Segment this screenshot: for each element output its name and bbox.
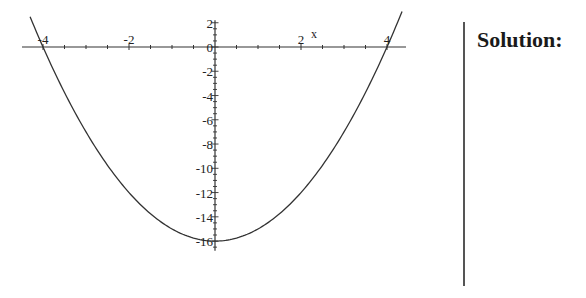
x-tick-label: 4 [384, 32, 391, 47]
x-axis-label: x [311, 27, 317, 41]
y-tick-label: -14 [196, 210, 214, 225]
y-tick-label: -4 [202, 89, 213, 104]
panel-divider [463, 22, 465, 286]
y-tick-label: -8 [202, 137, 213, 152]
y-tick-label: 0 [207, 40, 214, 55]
y-tick-label: -10 [196, 161, 213, 176]
x-tick-label: -4 [38, 32, 49, 47]
solution-heading: Solution: [477, 27, 563, 53]
axes [22, 20, 406, 250]
y-tick-label: -6 [202, 113, 213, 128]
x-tick-label: -2 [124, 32, 135, 47]
parabola-plot: -4-224x20-2-4-6-8-10-12-14-16 [0, 0, 440, 298]
y-tick-label: -16 [196, 234, 214, 249]
x-tick-label: 2 [298, 32, 305, 47]
y-tick-label: 2 [207, 16, 214, 31]
tick-labels: -4-224x20-2-4-6-8-10-12-14-16 [38, 16, 391, 249]
y-tick-label: -12 [196, 186, 213, 201]
y-tick-label: -2 [202, 64, 213, 79]
